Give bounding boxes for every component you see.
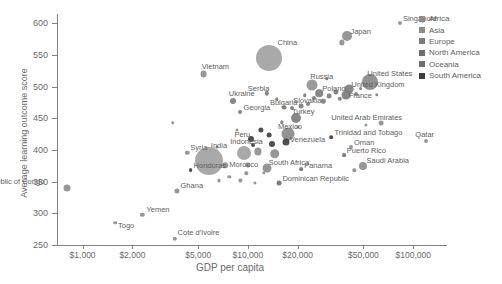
data-point[interactable] <box>327 94 332 99</box>
data-point[interactable] <box>245 172 248 175</box>
data-point[interactable] <box>258 127 263 132</box>
point-label: Honduras <box>194 161 227 170</box>
data-point[interactable] <box>299 167 303 171</box>
data-point[interactable] <box>254 148 261 155</box>
y-axis-line <box>57 14 58 245</box>
data-point[interactable] <box>171 121 174 124</box>
data-point[interactable] <box>398 21 402 25</box>
scatter-chart: Average learning outcome score GDP per c… <box>0 0 502 284</box>
point-label: Saudi Arabia <box>366 156 409 165</box>
point-label: China <box>277 38 297 47</box>
y-tick-mark <box>52 150 57 151</box>
point-label: Togo <box>118 221 134 230</box>
legend-item[interactable]: Europe <box>419 36 481 47</box>
data-point[interactable] <box>424 139 428 143</box>
data-point[interactable] <box>230 98 236 104</box>
data-point[interactable] <box>253 181 256 184</box>
point-label: Venezuela <box>290 135 325 144</box>
x-tick-mark <box>83 245 84 249</box>
x-tick-mark <box>298 245 299 249</box>
legend-swatch-icon <box>419 27 425 33</box>
legend-label: Oceania <box>429 60 459 69</box>
point-label: Georgia <box>244 103 271 112</box>
data-point[interactable] <box>63 185 70 192</box>
y-tick-mark <box>52 182 57 183</box>
data-point[interactable] <box>283 139 290 146</box>
y-tick-label: 250 <box>0 240 48 250</box>
legend-item[interactable]: Africa <box>419 13 481 24</box>
point-label: Vietnam <box>202 62 229 71</box>
y-tick-mark <box>52 118 57 119</box>
x-tick-mark <box>248 245 249 249</box>
x-axis-line <box>57 245 447 246</box>
x-tick-mark <box>198 245 199 249</box>
legend-label: Europe <box>429 37 455 46</box>
point-label: United Arab Emirates <box>331 113 402 122</box>
point-label: Syria <box>190 143 207 152</box>
point-label: India <box>211 141 227 150</box>
data-point[interactable] <box>277 181 282 186</box>
x-tick-label: $10,000 <box>233 250 264 260</box>
data-point[interactable] <box>269 141 275 147</box>
point-label: Poland <box>322 84 345 93</box>
y-tick-mark <box>52 55 57 56</box>
data-point[interactable] <box>365 123 368 126</box>
x-tick-label: $20,000 <box>282 250 313 260</box>
y-tick-mark <box>52 245 57 246</box>
x-tick-label: $100,000 <box>396 250 431 260</box>
point-label: Trinidad and Tobago <box>334 128 402 137</box>
x-axis-title: GDP per capita <box>0 262 460 273</box>
data-point[interactable] <box>189 168 193 172</box>
data-point[interactable] <box>200 71 207 78</box>
data-point[interactable] <box>140 212 144 216</box>
y-tick-label: 550 <box>0 50 48 60</box>
data-point[interactable] <box>172 236 176 240</box>
data-point[interactable] <box>339 40 344 45</box>
data-point[interactable] <box>185 150 189 154</box>
y-tick-label: 500 <box>0 82 48 92</box>
legend-label: North America <box>429 48 480 57</box>
point-label: United Kingdom <box>351 80 404 89</box>
legend-item[interactable]: South America <box>419 70 481 81</box>
data-point[interactable] <box>353 169 356 172</box>
legend-swatch-icon <box>419 16 425 22</box>
point-label: Yemen <box>146 205 169 214</box>
legend-item[interactable]: North America <box>419 47 481 58</box>
data-point[interactable] <box>174 188 179 193</box>
point-label: France <box>349 91 372 100</box>
data-point[interactable] <box>238 110 242 114</box>
data-point[interactable] <box>267 132 272 137</box>
point-label: Ghana <box>181 181 204 190</box>
y-tick-mark <box>52 23 57 24</box>
x-tick-label: $5,000 <box>185 250 211 260</box>
data-point[interactable] <box>307 79 318 90</box>
data-point[interactable] <box>338 97 342 101</box>
point-label: Japan <box>350 27 370 36</box>
point-label: Serbia <box>248 84 270 93</box>
legend-item[interactable]: Oceania <box>419 59 481 70</box>
y-tick-label: 400 <box>0 145 48 155</box>
data-point[interactable] <box>375 93 378 96</box>
data-point[interactable] <box>342 153 346 157</box>
legend-swatch-icon <box>419 73 425 79</box>
y-tick-mark <box>52 87 57 88</box>
y-tick-label: 450 <box>0 113 48 123</box>
data-point[interactable] <box>256 45 282 71</box>
legend-item[interactable]: Asia <box>419 24 481 35</box>
data-point[interactable] <box>239 179 242 182</box>
data-point[interactable] <box>237 146 251 160</box>
legend-swatch-icon <box>419 38 425 44</box>
point-label: Panama <box>304 161 332 170</box>
legend-label: Africa <box>429 14 449 23</box>
point-label: Qatar <box>415 130 434 139</box>
point-label: Cote d'Ivoire <box>178 228 220 237</box>
x-tick-label: $50,000 <box>348 250 379 260</box>
point-label: Puerto Rico <box>347 146 386 155</box>
data-point[interactable] <box>262 171 265 174</box>
point-label: Peru <box>234 130 250 139</box>
data-point[interactable] <box>218 179 221 182</box>
data-point[interactable] <box>113 221 117 225</box>
data-point[interactable] <box>227 175 230 178</box>
data-point[interactable] <box>330 136 334 140</box>
x-tick-mark <box>413 245 414 249</box>
